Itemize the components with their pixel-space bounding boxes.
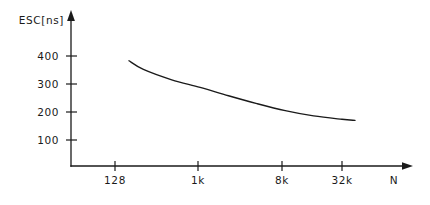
y-tick-label-200: 200 [37, 106, 59, 118]
x-axis-title: N [390, 174, 398, 186]
esc-curve [129, 61, 355, 121]
x-tick-label-1k: 1k [191, 174, 205, 186]
chart-canvas: 400 300 200 100 128 1k 8k 32k ESC[ns] N [0, 0, 430, 205]
x-tick-label-8k: 8k [275, 174, 289, 186]
chart-figure: 400 300 200 100 128 1k 8k 32k ESC[ns] N [0, 0, 430, 205]
x-tick-label-128: 128 [104, 174, 126, 186]
y-axis-title: ESC[ns] [19, 14, 64, 26]
x-axis [71, 162, 413, 170]
y-tick-label-100: 100 [37, 134, 59, 146]
y-axis [67, 10, 75, 166]
y-axis-tick-labels: 400 300 200 100 [37, 50, 59, 146]
y-axis-arrow-icon [67, 10, 75, 21]
x-axis-tick-labels: 128 1k 8k 32k [104, 174, 353, 186]
y-tick-label-300: 300 [37, 78, 59, 90]
x-tick-label-32k: 32k [331, 174, 353, 186]
y-tick-label-400: 400 [37, 50, 59, 62]
x-axis-arrow-icon [402, 162, 413, 170]
